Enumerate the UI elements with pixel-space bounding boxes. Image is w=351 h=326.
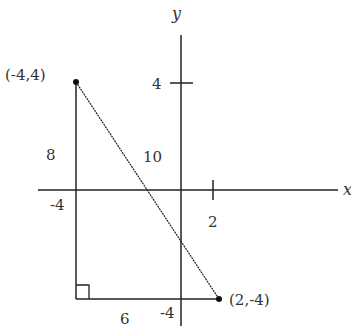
coordinate-plane: y x 4 2 -4 -4 (-4,4) (2,-4) 8 10 6 [0, 0, 351, 326]
vertical-side-label: 8 [46, 146, 56, 164]
hypotenuse-label: 10 [143, 148, 162, 166]
point-neg4-4 [73, 79, 79, 85]
horizontal-side-label: 6 [120, 310, 130, 326]
y-tick-4-label: 4 [152, 75, 162, 93]
x-tick-neg4-label: -4 [50, 196, 65, 214]
x-axis-label: x [343, 180, 351, 199]
x-tick-2-label: 2 [208, 213, 218, 231]
y-axis-label: y [171, 4, 182, 23]
y-tick-neg4-label: -4 [160, 304, 175, 322]
point-label-2-neg4: (2,-4) [229, 291, 270, 309]
right-angle-marker [76, 285, 89, 299]
point-label-neg4-4: (-4,4) [5, 66, 46, 84]
point-2-neg4 [216, 296, 222, 302]
